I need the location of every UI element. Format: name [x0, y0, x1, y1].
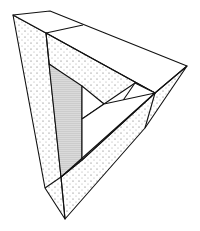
penrose-triangle-drawing: [0, 0, 200, 231]
penrose-triangle-figure: Penrose triangle (impossible triangle) s…: [0, 0, 200, 231]
